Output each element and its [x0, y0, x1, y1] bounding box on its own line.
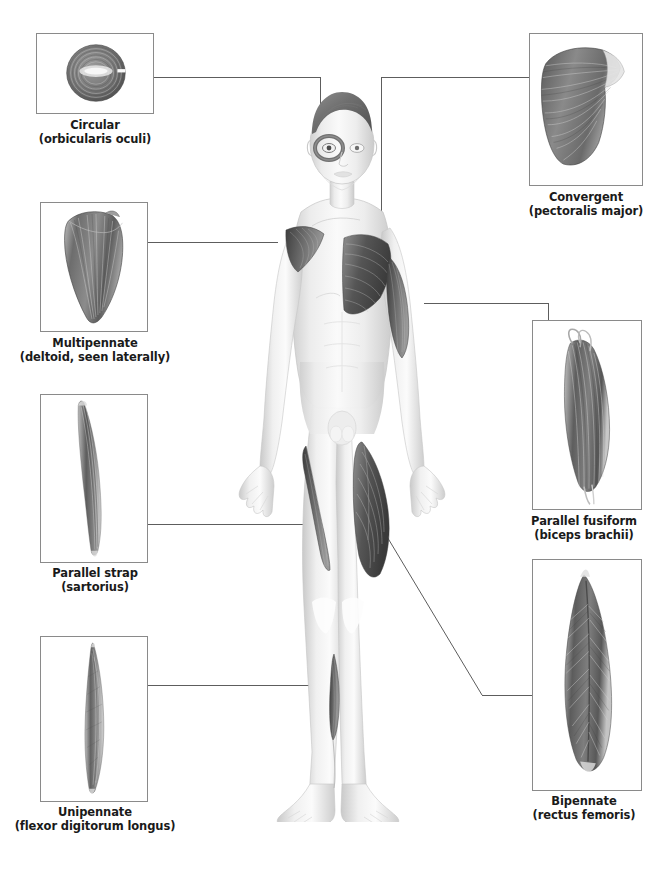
panel-circular [36, 33, 154, 114]
muscle-shapes-figure: Circular (orbicularis oculi) [0, 0, 667, 872]
panel-bipennate [532, 559, 642, 791]
caption-multipennate-muscle: (deltoid, seen laterally) [12, 350, 178, 364]
panel-multipennate [40, 202, 148, 332]
panel-unipennate [40, 636, 148, 802]
panel-parallel-fusiform [532, 320, 642, 510]
caption-circular: Circular (orbicularis oculi) [20, 118, 170, 146]
rectus-femoris-muscle [353, 442, 389, 577]
leader-line-parallel-fusiform-drop [548, 303, 549, 321]
leader-line-bipennate [482, 695, 532, 696]
caption-parallel-fusiform-title: Parallel fusiform [531, 514, 637, 528]
caption-convergent-title: Convergent [549, 190, 623, 204]
caption-convergent-muscle: (pectoralis major) [506, 204, 666, 218]
caption-bipennate-muscle: (rectus femoris) [504, 808, 664, 822]
right-hand [410, 466, 445, 517]
panel-parallel-strap [40, 394, 148, 563]
caption-multipennate: Multipennate (deltoid, seen laterally) [12, 336, 178, 364]
human-body-illustration [238, 62, 448, 822]
left-foot [277, 784, 335, 822]
caption-parallel-strap: Parallel strap (sartorius) [20, 566, 170, 594]
caption-circular-title: Circular [70, 118, 120, 132]
caption-circular-muscle: (orbicularis oculi) [20, 132, 170, 146]
parallel-fusiform-muscle-illustration [533, 321, 641, 509]
caption-parallel-strap-title: Parallel strap [52, 566, 138, 580]
parallel-strap-muscle-illustration [41, 395, 147, 562]
bipennate-muscle-illustration [533, 560, 641, 790]
caption-multipennate-title: Multipennate [52, 336, 137, 350]
caption-bipennate-title: Bipennate [551, 794, 616, 808]
caption-convergent: Convergent (pectoralis major) [506, 190, 666, 218]
convergent-muscle-illustration [530, 34, 642, 185]
panel-convergent [529, 33, 643, 186]
caption-parallel-fusiform-muscle: (biceps brachii) [502, 528, 666, 542]
caption-parallel-fusiform: Parallel fusiform (biceps brachii) [502, 514, 666, 542]
caption-unipennate: Unipennate (flexor digitorum longus) [14, 805, 176, 833]
unipennate-muscle-illustration [41, 637, 147, 801]
caption-bipennate: Bipennate (rectus femoris) [504, 794, 664, 822]
caption-parallel-strap-muscle: (sartorius) [20, 580, 170, 594]
left-hand [239, 466, 274, 517]
caption-unipennate-muscle: (flexor digitorum longus) [14, 819, 176, 833]
multipennate-muscle-illustration [41, 203, 147, 331]
circular-muscle-illustration [37, 34, 153, 113]
right-foot [341, 784, 399, 822]
caption-unipennate-title: Unipennate [58, 805, 132, 819]
